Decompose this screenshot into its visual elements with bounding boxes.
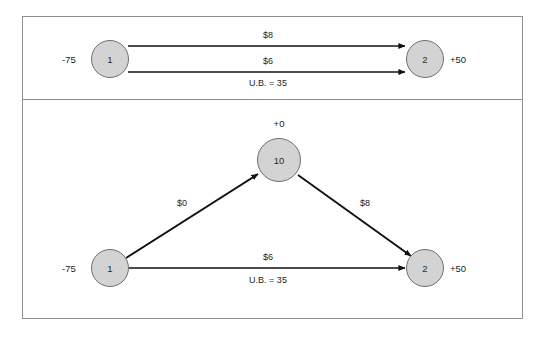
node-1-top-supply-label: -75 bbox=[62, 55, 76, 65]
node-10-supply-label: +0 bbox=[274, 119, 285, 129]
edge-1-to-2-bottom-cost6-label: $6 bbox=[263, 253, 273, 262]
edge-10-to-2-cost8-label: $8 bbox=[360, 199, 370, 208]
edge-1-to-10-cost0-label: $0 bbox=[177, 199, 187, 208]
node-2-bottom-label: 2 bbox=[422, 263, 427, 274]
node-2-top-supply-label: +50 bbox=[450, 55, 466, 65]
node-2-bottom-supply-label: +50 bbox=[450, 264, 466, 274]
node-10[interactable]: 10 bbox=[257, 138, 301, 182]
node-1-top[interactable]: 1 bbox=[91, 40, 129, 78]
node-1-bottom[interactable]: 1 bbox=[91, 249, 129, 287]
node-2-top[interactable]: 2 bbox=[406, 40, 444, 78]
node-1-top-label: 1 bbox=[107, 54, 112, 65]
node-2-bottom[interactable]: 2 bbox=[406, 249, 444, 287]
node-1-bottom-label: 1 bbox=[107, 263, 112, 274]
edge-1-to-2-cost8-label: $8 bbox=[263, 31, 273, 40]
network-flow-figure: 1 -75 2 +50 $8 $6 U.B. = 35 10 +0 1 -75 … bbox=[0, 0, 545, 337]
panel-original-network: 1 -75 2 +50 $8 $6 U.B. = 35 bbox=[0, 0, 545, 100]
edge-1-to-2-upper-bound-label: U.B. = 35 bbox=[249, 79, 287, 88]
node-2-top-label: 2 bbox=[422, 54, 427, 65]
edge-1-to-2-bottom-upper-bound-label: U.B. = 35 bbox=[249, 276, 287, 285]
panel-transformed-network: 10 +0 1 -75 2 +50 $0 $8 $6 U.B. = 35 bbox=[0, 100, 545, 337]
node-10-label: 10 bbox=[274, 155, 285, 166]
node-1-bottom-supply-label: -75 bbox=[62, 264, 76, 274]
edge-1-to-2-cost6-label: $6 bbox=[263, 57, 273, 66]
